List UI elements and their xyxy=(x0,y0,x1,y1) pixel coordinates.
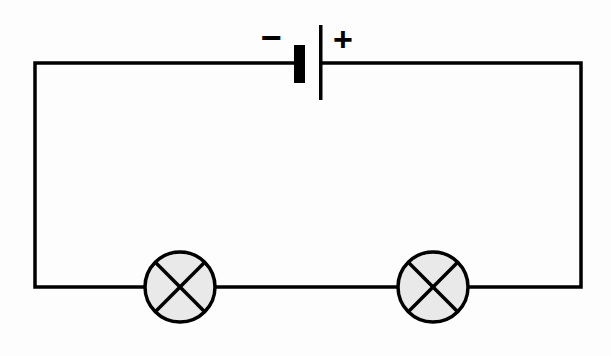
battery-negative-plate xyxy=(294,45,305,83)
lamp-icon xyxy=(398,252,468,322)
battery-icon: − + xyxy=(260,17,352,100)
positive-sign: + xyxy=(333,20,353,58)
circuit-diagram: − + xyxy=(0,0,611,356)
negative-sign: − xyxy=(260,17,281,58)
battery-positive-plate xyxy=(319,25,323,100)
lamp-icon xyxy=(145,252,215,322)
circuit-svg: − + xyxy=(0,0,611,356)
wire-top-left xyxy=(35,63,294,287)
wire-top-right xyxy=(322,63,581,287)
